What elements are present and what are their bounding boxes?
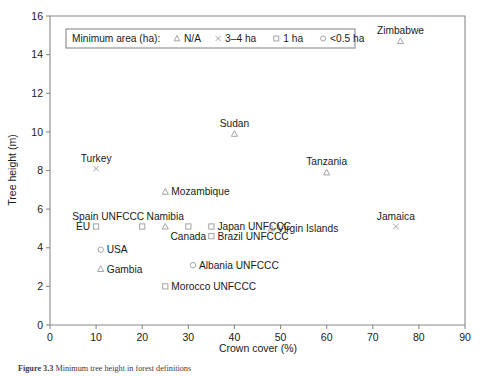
data-point: Namibia: [147, 211, 185, 229]
caption-figure-number: Figure 3.3: [18, 364, 53, 373]
x-axis-ticks: 0102030405060708090: [47, 325, 471, 343]
y-axis-ticks: 0246810121416: [31, 10, 50, 331]
data-point: Canada: [170, 224, 206, 242]
marker-triangle: [397, 38, 403, 44]
y-tick-label: 6: [37, 203, 43, 215]
data-point-label: Gambia: [107, 264, 143, 275]
y-tick-label: 8: [37, 164, 43, 176]
data-point: Sudan: [220, 118, 249, 136]
data-point-label: EU: [76, 221, 90, 232]
x-tick-label: 90: [459, 331, 471, 343]
marker-triangle: [162, 223, 168, 229]
data-point: Albania UNFCCC: [190, 260, 279, 271]
legend-entry-label: <0.5 ha: [330, 33, 365, 44]
data-point: Zimbabwe: [377, 25, 424, 43]
data-point-label: Spain UNFCCC: [72, 211, 144, 222]
x-tick-label: 0: [47, 331, 53, 343]
legend-entry-label: N/A: [184, 33, 201, 44]
marker-square: [140, 224, 145, 229]
data-point: Tanzania: [306, 156, 347, 174]
data-point-label: Mozambique: [171, 186, 230, 197]
legend-title: Minimum area (ha):: [72, 33, 160, 44]
scatter-plot: 0246810121416 0102030405060708090 Tree h…: [0, 0, 487, 377]
data-point: Morocco UNFCCC: [163, 281, 257, 292]
axes-border: [50, 16, 465, 325]
y-tick-label: 16: [31, 10, 43, 22]
data-point-label: Albania UNFCCC: [199, 260, 279, 271]
y-tick-label: 2: [37, 280, 43, 292]
data-point: Gambia: [98, 264, 143, 275]
marker-square: [93, 224, 98, 229]
figure-container: 0246810121416 0102030405060708090 Tree h…: [0, 0, 487, 377]
legend-entry-label: 1 ha: [283, 33, 303, 44]
marker-square: [209, 234, 214, 239]
data-point: EU: [76, 221, 99, 232]
marker-square: [163, 284, 168, 289]
y-tick-label: 4: [37, 241, 43, 253]
data-point: USA: [98, 244, 128, 255]
data-point-label: Virgin Islands: [277, 223, 338, 234]
data-point-label: Morocco UNFCCC: [171, 281, 256, 292]
data-point: Jamaica: [377, 211, 415, 230]
marker-circle: [98, 247, 103, 252]
x-tick-label: 60: [321, 331, 333, 343]
marker-cross: [393, 224, 398, 229]
x-tick-label: 20: [136, 331, 148, 343]
data-point: Mozambique: [162, 186, 230, 197]
plot-legend: Minimum area (ha):N/A3–4 ha1 ha<0.5 ha: [66, 29, 365, 48]
marker-cross: [93, 166, 98, 171]
marker-triangle: [162, 189, 168, 195]
data-point: Turkey: [81, 153, 113, 172]
marker-triangle: [98, 266, 104, 272]
data-point-label: USA: [107, 244, 128, 255]
data-point-label: Canada: [170, 231, 206, 242]
y-axis-title: Tree height (m): [6, 134, 18, 205]
caption-text: Minimum tree height in forest definition…: [55, 364, 191, 373]
x-axis-title: Crown cover (%): [219, 342, 297, 354]
marker-square: [186, 224, 191, 229]
marker-triangle: [231, 131, 237, 137]
data-point-group: ZimbabweSudanTanzaniaTurkeyMozambiqueSpa…: [72, 25, 424, 292]
y-tick-label: 10: [31, 126, 43, 138]
y-tick-label: 0: [37, 319, 43, 331]
axes-frame: [50, 16, 465, 325]
data-point-label: Sudan: [220, 118, 249, 129]
marker-circle: [190, 262, 195, 267]
y-tick-label: 12: [31, 87, 43, 99]
data-point-label: Turkey: [81, 153, 113, 164]
x-tick-label: 70: [367, 331, 379, 343]
x-tick-label: 80: [413, 331, 425, 343]
data-point-label: Jamaica: [377, 211, 415, 222]
data-point: Virgin Islands: [268, 223, 338, 234]
data-point-label: Namibia: [147, 211, 185, 222]
marker-square: [209, 224, 214, 229]
x-tick-label: 10: [90, 331, 102, 343]
data-point-label: Zimbabwe: [377, 25, 424, 36]
legend-entry-label: 3–4 ha: [225, 33, 256, 44]
x-tick-label: 30: [182, 331, 194, 343]
data-point-label: Tanzania: [306, 156, 347, 167]
y-tick-label: 14: [31, 48, 43, 60]
figure-caption: Figure 3.3 Minimum tree height in forest…: [18, 364, 478, 373]
marker-triangle: [324, 169, 330, 175]
